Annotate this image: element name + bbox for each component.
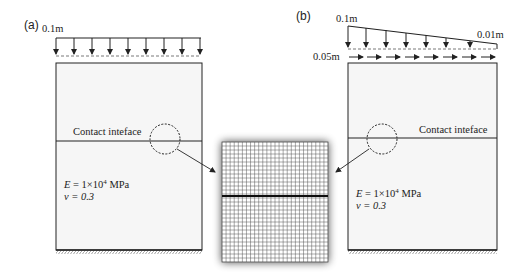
panel-a-poisson-ratio: v = 0.3 bbox=[64, 191, 94, 202]
panel-a-interface-label: Contact inteface bbox=[73, 126, 142, 137]
panel-b-poisson-ratio: v = 0.3 bbox=[356, 200, 386, 211]
panel-a: (a) 0.1m Contact inteface E = 1×104 MPa … bbox=[24, 18, 215, 254]
figure-canvas: (a) 0.1m Contact inteface E = 1×104 MPa … bbox=[0, 0, 524, 275]
uniform-load-arrows-icon bbox=[56, 38, 201, 56]
linear-load-arrows-icon bbox=[348, 26, 497, 49]
panel-b-label: (b) bbox=[296, 9, 311, 23]
panel-a-label: (a) bbox=[24, 18, 39, 32]
panel-b-load-right: 0.01m bbox=[477, 29, 504, 40]
panel-b-load-left: 0.1m bbox=[336, 13, 357, 24]
mesh-detail bbox=[222, 142, 328, 262]
panel-a-youngs-modulus: E = 1×104 MPa bbox=[63, 178, 130, 190]
panel-b-interface-label: Contact inteface bbox=[419, 124, 488, 135]
panel-b-shear-magnitude: 0.05m bbox=[313, 51, 340, 62]
panel-a-specimen-box bbox=[56, 63, 202, 250]
panel-b-youngs-modulus: E = 1×104 MPa bbox=[355, 187, 422, 199]
panel-a-load-magnitude: 0.1m bbox=[42, 23, 63, 34]
panel-b-specimen-box bbox=[348, 63, 497, 250]
